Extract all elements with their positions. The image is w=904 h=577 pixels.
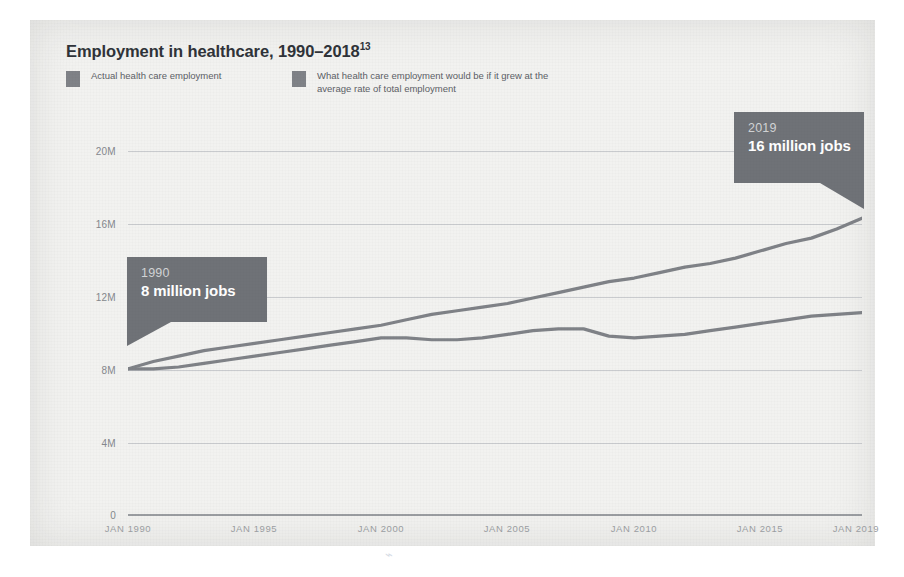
chart-panel: Employment in healthcare, 1990–201813 Ac…: [30, 20, 875, 546]
annotation-callout-1990: 1990 8 million jobs: [127, 257, 267, 322]
legend-item-actual: Actual health care employment: [66, 70, 221, 87]
annotation-value: 8 million jobs: [141, 281, 253, 300]
chart-title-footnote-marker: 13: [360, 41, 371, 52]
x-axis-tick-label: JAN 1990: [105, 523, 152, 534]
chart-page: Employment in healthcare, 1990–201813 Ac…: [0, 0, 904, 577]
legend-swatch-icon: [292, 71, 306, 87]
x-axis-tick-label: JAN 2019: [833, 523, 880, 534]
legend-item-counterfactual: What health care employment would be if …: [292, 70, 577, 95]
annotation-value: 16 million jobs: [748, 136, 850, 155]
x-axis-tick-label: JAN 1995: [231, 523, 278, 534]
x-axis-tick-label: JAN 2005: [484, 523, 531, 534]
x-axis-tick-label: JAN 2000: [358, 523, 405, 534]
annotation-callout-2019: 2019 16 million jobs: [734, 112, 864, 183]
x-axis-tick-label: JAN 2010: [611, 523, 658, 534]
annotation-year: 2019: [748, 121, 850, 136]
y-axis-tick-label: 4M: [66, 438, 116, 449]
y-axis-tick-label: 8M: [66, 365, 116, 376]
y-axis-tick-label: 0: [66, 510, 116, 521]
legend-label-actual: Actual health care employment: [91, 70, 221, 83]
annotation-year: 1990: [141, 266, 253, 281]
legend-swatch-icon: [66, 71, 80, 87]
annotation-pointer-1990: [127, 322, 171, 346]
y-axis-tick-label: 12M: [66, 292, 116, 303]
legend-label-counterfactual: What health care employment would be if …: [317, 70, 577, 95]
x-axis-tick-label: JAN 2015: [737, 523, 784, 534]
annotation-pointer-2019: [820, 183, 864, 209]
scan-artifact-mark: ⌁: [385, 549, 399, 571]
y-axis-tick-label: 20M: [66, 146, 116, 157]
page-title: Employment in healthcare, 1990–201813: [66, 41, 371, 61]
chart-title-text: Employment in healthcare, 1990–2018: [66, 42, 360, 60]
y-axis-tick-label: 16M: [66, 219, 116, 230]
